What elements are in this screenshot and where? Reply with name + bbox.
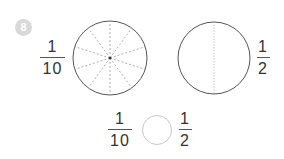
- fraction-bar: [179, 129, 192, 130]
- compare-fraction-one-half: 1 2: [178, 111, 192, 149]
- compare-fraction-one-tenth: 1 10: [108, 111, 132, 149]
- fraction-denominator: 10: [110, 133, 130, 149]
- figures-canvas: [0, 0, 284, 159]
- fraction-bar: [108, 129, 132, 130]
- comparison-answer-circle[interactable]: [143, 116, 172, 145]
- circle-halves-figure: [178, 22, 250, 94]
- fraction-denominator: 2: [180, 133, 190, 149]
- fraction-numerator: 1: [115, 111, 125, 127]
- circle-tenths-figure: [73, 21, 147, 95]
- fraction-numerator: 1: [180, 111, 190, 127]
